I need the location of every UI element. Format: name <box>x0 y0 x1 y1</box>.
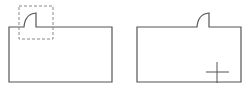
shape-with-tab <box>9 13 112 82</box>
crosshair-cursor-icon <box>206 62 229 83</box>
diagram-canvas <box>0 0 248 89</box>
panel-left <box>9 6 112 82</box>
panel-right <box>137 13 241 83</box>
